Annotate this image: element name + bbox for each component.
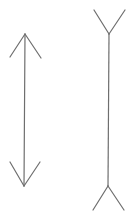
- bottom-fin: [10, 162, 24, 186]
- shaft-line: [24, 34, 25, 186]
- bottom-fin: [24, 162, 40, 186]
- outward-fins-line: [93, 10, 125, 210]
- inward-arrows-line: [10, 34, 41, 186]
- bottom-fin: [93, 186, 108, 210]
- top-fin: [25, 34, 41, 58]
- shaft-line: [108, 34, 109, 186]
- top-fin: [10, 34, 25, 57]
- top-fin: [94, 10, 109, 34]
- top-fin: [109, 10, 125, 34]
- muller-lyer-diagram: [0, 0, 137, 219]
- bottom-fin: [108, 186, 124, 210]
